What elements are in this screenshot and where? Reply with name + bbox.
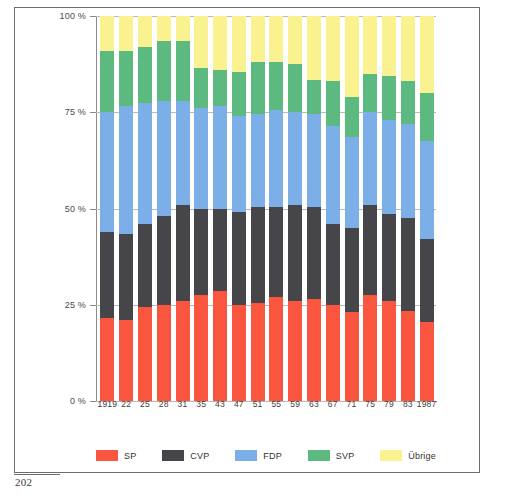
- bar: [269, 16, 283, 401]
- bar-segment-fdp: [307, 114, 321, 207]
- bar-segment-fdp: [288, 112, 302, 205]
- bar-segment-cvp: [176, 204, 190, 301]
- bar-segment-sp: [288, 301, 302, 402]
- x-axis-tick-label: 55: [271, 399, 281, 409]
- bar-segment-sp: [176, 301, 190, 402]
- x-axis-tick-label: 63: [309, 399, 319, 409]
- bar-segment-übrige: [420, 16, 434, 93]
- x-axis-tick-label: 67: [328, 399, 338, 409]
- bar-segment-übrige: [176, 16, 190, 41]
- bar-segment-fdp: [176, 100, 190, 204]
- bar-segment-übrige: [288, 16, 302, 65]
- bar-segment-sp: [269, 297, 283, 401]
- legend-swatch-sp: [96, 450, 118, 461]
- bar-segment-sp: [345, 312, 359, 401]
- chart-legend: SPCVPFDPSVPÜbrige: [96, 450, 436, 461]
- bar-segment-cvp: [288, 204, 302, 301]
- bar-segment-svp: [288, 64, 302, 113]
- page-number: 202: [15, 476, 32, 488]
- bar-segment-svp: [307, 79, 321, 114]
- bar: [138, 16, 152, 401]
- bar-segment-fdp: [363, 112, 377, 205]
- bar: [100, 16, 114, 401]
- bar-segment-svp: [251, 62, 265, 114]
- bar-segment-fdp: [100, 112, 114, 232]
- bar-segment-svp: [213, 70, 227, 107]
- bar-segment-cvp: [213, 208, 227, 291]
- bar-segment-übrige: [138, 16, 152, 47]
- x-axis-tick-label: 47: [234, 399, 244, 409]
- legend-label: SVP: [336, 451, 355, 461]
- y-axis-tick-label: 50 %: [65, 204, 86, 214]
- bar-segment-übrige: [194, 16, 208, 68]
- bar-segment-svp: [401, 81, 415, 124]
- bar-segment-sp: [251, 302, 265, 401]
- bar-segment-fdp: [138, 102, 152, 224]
- bar-segment-cvp: [119, 233, 133, 320]
- y-axis-tickmark: [90, 16, 96, 17]
- bar: [345, 16, 359, 401]
- bar-segment-svp: [100, 50, 114, 112]
- legend-swatch-fdp: [235, 450, 257, 461]
- page-number-rule: [14, 474, 60, 475]
- bar-segment-sp: [194, 295, 208, 401]
- legend-item-cvp: CVP: [162, 450, 209, 461]
- bar: [326, 16, 340, 401]
- x-axis-tick-label: 28: [159, 399, 169, 409]
- bar: [382, 16, 396, 401]
- legend-item-svp: SVP: [308, 450, 355, 461]
- bar-segment-svp: [232, 71, 246, 116]
- bar-segment-übrige: [251, 16, 265, 63]
- bar-segment-sp: [138, 306, 152, 401]
- bar: [213, 16, 227, 401]
- legend-label: FDP: [263, 451, 282, 461]
- bar-segment-cvp: [100, 231, 114, 318]
- bar-segment-fdp: [382, 120, 396, 215]
- x-axis-tick-label: 31: [178, 399, 188, 409]
- bar-segment-übrige: [345, 16, 359, 97]
- legend-swatch-übrige: [380, 450, 402, 461]
- x-axis-tick-label: 83: [403, 399, 413, 409]
- bar-segment-svp: [363, 73, 377, 112]
- bar-segment-sp: [213, 291, 227, 401]
- bar-segment-fdp: [213, 106, 227, 208]
- x-axis-tick-label: 1919: [98, 399, 118, 409]
- legend-item-sp: SP: [96, 450, 136, 461]
- bar-segment-cvp: [345, 227, 359, 312]
- bar-segment-fdp: [232, 116, 246, 213]
- x-axis-tick-label: 51: [253, 399, 263, 409]
- bar-segment-sp: [119, 320, 133, 401]
- plot-area: 0 %25 %50 %75 %100 %: [96, 16, 436, 401]
- bar: [420, 16, 434, 401]
- bar-segment-cvp: [269, 206, 283, 297]
- x-axis-tick-label: 22: [121, 399, 131, 409]
- bar: [176, 16, 190, 401]
- bar-segment-übrige: [382, 16, 396, 76]
- y-axis-tick-label: 100 %: [59, 11, 86, 21]
- bar-segment-sp: [100, 318, 114, 401]
- bar-segment-übrige: [232, 16, 246, 72]
- legend-item-übrige: Übrige: [380, 450, 436, 461]
- bar-segment-cvp: [363, 204, 377, 295]
- bar: [251, 16, 265, 401]
- y-axis-tickmark: [90, 305, 96, 306]
- y-axis-tick-label: 0 %: [70, 396, 86, 406]
- bar-segment-svp: [345, 96, 359, 137]
- x-axis-tick-label: 1987: [417, 399, 437, 409]
- bar-segment-übrige: [307, 16, 321, 80]
- bar: [194, 16, 208, 401]
- legend-swatch-svp: [308, 450, 330, 461]
- bar-segment-fdp: [420, 141, 434, 240]
- bar-segment-svp: [138, 46, 152, 102]
- bar-segment-cvp: [157, 216, 171, 305]
- y-axis-tick-label: 25 %: [65, 300, 86, 310]
- bar-segment-fdp: [119, 106, 133, 233]
- legend-label: CVP: [190, 451, 209, 461]
- bar-segment-übrige: [401, 16, 415, 82]
- bar-segment-cvp: [138, 224, 152, 307]
- x-axis-tick-label: 25: [140, 399, 150, 409]
- bar-segment-übrige: [157, 16, 171, 41]
- bar-segment-sp: [420, 322, 434, 401]
- bar-segment-cvp: [382, 214, 396, 301]
- bar-segment-fdp: [194, 108, 208, 209]
